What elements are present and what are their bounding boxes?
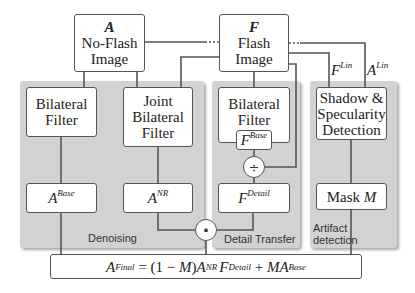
- multiply-operator-node: ·: [195, 219, 217, 241]
- a-nr-sup: NR: [157, 188, 169, 198]
- detail-transfer-label: Detail Transfer: [224, 233, 296, 245]
- f-detail-symbol: F: [238, 190, 247, 206]
- f-base-box: FBase: [236, 130, 272, 150]
- f-detail-sup: Detail: [247, 188, 270, 198]
- bilateral-filter-line1: Bilateral: [36, 96, 88, 112]
- f-base-sup: Base: [250, 130, 268, 140]
- flash-label-line1: Flash: [238, 35, 271, 51]
- artifact-detection-label: Artifact detection: [313, 222, 358, 246]
- joint-bilateral-line1: Joint: [143, 93, 172, 109]
- shadow-line2: Specularity: [317, 106, 385, 122]
- flash-bilateral-line2: Filter: [238, 112, 271, 128]
- multiply-icon: ·: [203, 220, 210, 241]
- joint-bilateral-line2: Bilateral: [132, 109, 184, 125]
- joint-bilateral-line3: Filter: [142, 125, 175, 141]
- a-lin-symbol: A: [367, 62, 376, 78]
- denoising-label: Denoising: [88, 232, 137, 244]
- no-flash-label-line2: Image: [91, 51, 128, 67]
- artifact-label-line2: detection: [313, 234, 358, 246]
- divide-operator-node: ÷: [243, 156, 265, 178]
- a-lin-sup: Lin: [376, 60, 388, 70]
- no-flash-label-line1: No-Flash: [82, 35, 138, 51]
- mask-text: Mask: [327, 189, 364, 205]
- f-lin-symbol: F: [331, 62, 340, 78]
- final-m1: M: [179, 259, 192, 275]
- a-base-symbol: A: [48, 190, 57, 206]
- a-lin-label: ALin: [367, 62, 388, 79]
- bilateral-filter-line2: Filter: [45, 112, 78, 128]
- final-m2: M: [267, 259, 280, 275]
- f-lin-label: FLin: [331, 62, 352, 79]
- final-lhs: A: [106, 259, 115, 275]
- shadow-line3: Detection: [322, 122, 380, 138]
- final-t3: A: [279, 259, 288, 275]
- a-base-sup: Base: [57, 188, 75, 198]
- final-plus: +: [251, 259, 267, 275]
- a-nr-symbol: A: [148, 190, 157, 206]
- connection-wires: [0, 0, 415, 293]
- flash-label-line2: Image: [235, 51, 272, 67]
- shadow-line1: Shadow &: [320, 90, 384, 106]
- final-formula-box: AFinal = (1 − M ) ANR FDetail + M ABase: [50, 254, 362, 279]
- f-detail-box: FDetail: [218, 183, 290, 213]
- flash-image-box: F Flash Image: [219, 14, 289, 72]
- bilateral-filter-box: Bilateral Filter: [26, 87, 97, 137]
- a-nr-box: ANR: [123, 183, 193, 213]
- joint-bilateral-filter-box: Joint Bilateral Filter: [123, 87, 193, 147]
- f-base-symbol: F: [241, 132, 250, 148]
- final-eq: = (1 −: [135, 259, 179, 275]
- divide-icon: ÷: [249, 160, 260, 175]
- flash-symbol: F: [249, 19, 259, 35]
- a-base-box: ABase: [26, 183, 97, 213]
- artifact-label-line1: Artifact: [313, 222, 358, 234]
- flash-bilateral-line1: Bilateral: [228, 96, 280, 112]
- no-flash-symbol: A: [104, 19, 114, 35]
- no-flash-image-box: A No-Flash Image: [74, 14, 145, 72]
- mask-symbol: M: [364, 189, 377, 205]
- final-t1: A: [197, 259, 206, 275]
- mask-box: Mask M: [316, 183, 387, 210]
- shadow-specularity-detection-box: Shadow & Specularity Detection: [316, 87, 387, 140]
- f-lin-sup: Lin: [340, 60, 352, 70]
